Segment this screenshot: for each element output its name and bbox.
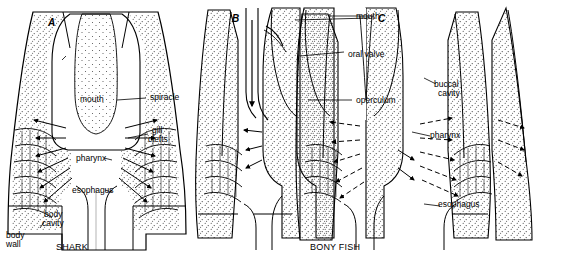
label-operculum: operculum	[356, 96, 396, 105]
label-body-wall-2: wall	[6, 240, 21, 249]
panel-label-a: A	[48, 18, 55, 29]
fish-respiration-diagram	[0, 0, 570, 258]
label-spiracle: spiracle	[150, 93, 179, 102]
caption-bony-fish: BONY FISH	[310, 243, 360, 252]
label-gill-clefts-2: clefts	[148, 135, 168, 144]
figure-canvas: A B C mouth spiracle gill clefts pharynx…	[0, 0, 570, 258]
label-body-cavity-2: cavity	[42, 219, 64, 228]
label-esophagus-bony: esophagus	[438, 200, 480, 209]
label-mouth-bony: mouth	[356, 12, 380, 21]
label-mouth-shark: mouth	[80, 95, 104, 104]
label-pharynx-bony: pharynx	[430, 131, 460, 140]
label-oral-valve: oral valve	[348, 50, 384, 59]
label-esophagus-shark: esophagus	[72, 186, 114, 195]
label-pharynx-shark: pharynx	[76, 154, 106, 163]
label-buccal-cavity-2: cavity	[438, 89, 460, 98]
panel-label-b: B	[232, 14, 239, 25]
caption-shark: SHARK	[56, 243, 88, 252]
